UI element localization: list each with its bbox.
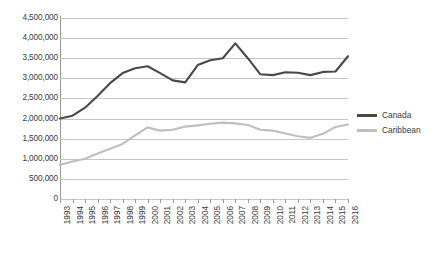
legend-item-canada[interactable]: Canada xyxy=(357,108,435,123)
x-axis-tick xyxy=(73,199,74,203)
x-axis-tick xyxy=(173,199,174,203)
x-axis-tick xyxy=(260,199,261,203)
x-axis-tick-label: 2012 xyxy=(302,206,310,224)
x-axis-tick xyxy=(198,199,199,203)
x-axis-tick-label: 2001 xyxy=(164,206,172,224)
x-axis-tick xyxy=(210,199,211,203)
x-axis-tick xyxy=(248,199,249,203)
x-axis-tick xyxy=(223,199,224,203)
x-axis-tick xyxy=(235,199,236,203)
x-axis-tick xyxy=(160,199,161,203)
x-axis-tick-label: 2015 xyxy=(339,206,347,224)
x-axis-tick xyxy=(335,199,336,203)
x-axis-tick xyxy=(60,199,61,203)
x-axis-tick xyxy=(285,199,286,203)
legend-swatch xyxy=(357,129,377,132)
x-axis-tick-label: 1994 xyxy=(77,206,85,224)
x-axis-tick xyxy=(110,199,111,203)
x-axis-tick-label: 2003 xyxy=(189,206,197,224)
x-axis-tick xyxy=(185,199,186,203)
legend-label: Canada xyxy=(382,111,411,119)
x-axis-tick xyxy=(310,199,311,203)
x-axis-tick-label: 2014 xyxy=(327,206,335,224)
x-axis-tick xyxy=(148,199,149,203)
x-axis-tick-label: 1995 xyxy=(89,206,97,224)
x-axis-tick-label: 2005 xyxy=(214,206,222,224)
x-axis-tick-label: 2010 xyxy=(277,206,285,224)
x-axis-tick-label: 1999 xyxy=(139,206,147,224)
x-axis-tick-label: 2008 xyxy=(252,206,260,224)
x-axis-tick-label: 2016 xyxy=(352,206,360,224)
x-axis-tick-label: 2006 xyxy=(227,206,235,224)
x-axis-tick-label: 2000 xyxy=(152,206,160,224)
x-axis-tick xyxy=(298,199,299,203)
x-axis-tick xyxy=(135,199,136,203)
x-axis-tick xyxy=(323,199,324,203)
x-axis-tick-label: 2004 xyxy=(202,206,210,224)
x-axis-tick-label: 2002 xyxy=(177,206,185,224)
x-axis-tick-label: 1993 xyxy=(64,206,72,224)
chart-legend: CanadaCaribbean xyxy=(357,108,435,138)
legend-item-caribbean[interactable]: Caribbean xyxy=(357,123,435,138)
x-axis-tick-label: 2009 xyxy=(264,206,272,224)
line-chart: 4,500,0004,000,0003,500,0003,000,0002,50… xyxy=(0,0,435,259)
legend-label: Caribbean xyxy=(382,126,421,134)
x-axis-tick-label: 1998 xyxy=(127,206,135,224)
legend-swatch xyxy=(357,114,377,117)
x-axis-tick-label: 2013 xyxy=(314,206,322,224)
x-axis-tick xyxy=(123,199,124,203)
x-axis-tick-label: 1996 xyxy=(102,206,110,224)
x-axis-tick xyxy=(348,199,349,203)
x-axis-tick xyxy=(85,199,86,203)
x-axis-tick-label: 2007 xyxy=(239,206,247,224)
x-axis-tick xyxy=(98,199,99,203)
x-axis-tick xyxy=(273,199,274,203)
x-axis-tick-label: 2011 xyxy=(289,206,297,224)
x-axis-tick-label: 1997 xyxy=(114,206,122,224)
